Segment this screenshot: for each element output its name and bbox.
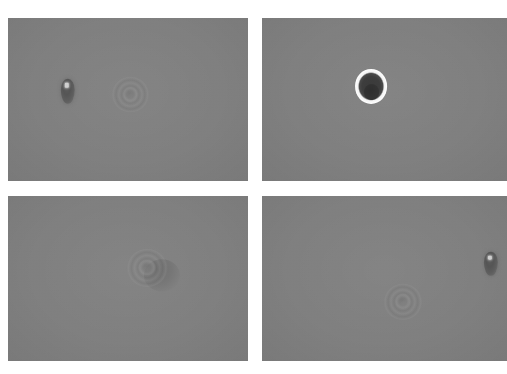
- panel-grid: [8, 18, 499, 361]
- bright-ring-particle-icon: [355, 69, 387, 103]
- panel-vignette: [262, 196, 507, 361]
- panel-noise-texture: [262, 18, 507, 181]
- faint-diffraction-ring-icon: [127, 249, 168, 287]
- panel-bottom-left[interactable]: [8, 196, 248, 361]
- panel-noise-texture: [262, 196, 507, 361]
- ring-core: [123, 87, 138, 101]
- faint-diffraction-ring-icon: [383, 283, 422, 319]
- panel-vignette: [8, 18, 248, 181]
- dark-particle-icon: [484, 251, 498, 276]
- panel-noise-texture: [8, 196, 248, 361]
- panel-top-left[interactable]: [8, 18, 248, 181]
- figure-caption: [2, 1, 122, 15]
- ring-core: [139, 260, 155, 275]
- panel-vignette: [262, 18, 507, 181]
- ring-core: [395, 294, 411, 309]
- figure-root: [0, 0, 507, 374]
- crescent-shadow-icon: [144, 260, 180, 291]
- panel-bottom-right[interactable]: [262, 196, 507, 361]
- panel-vignette: [8, 196, 248, 361]
- dark-particle-icon: [61, 79, 75, 103]
- panel-noise-texture: [8, 18, 248, 181]
- panel-top-right[interactable]: [262, 18, 507, 181]
- faint-diffraction-ring-icon: [112, 77, 149, 113]
